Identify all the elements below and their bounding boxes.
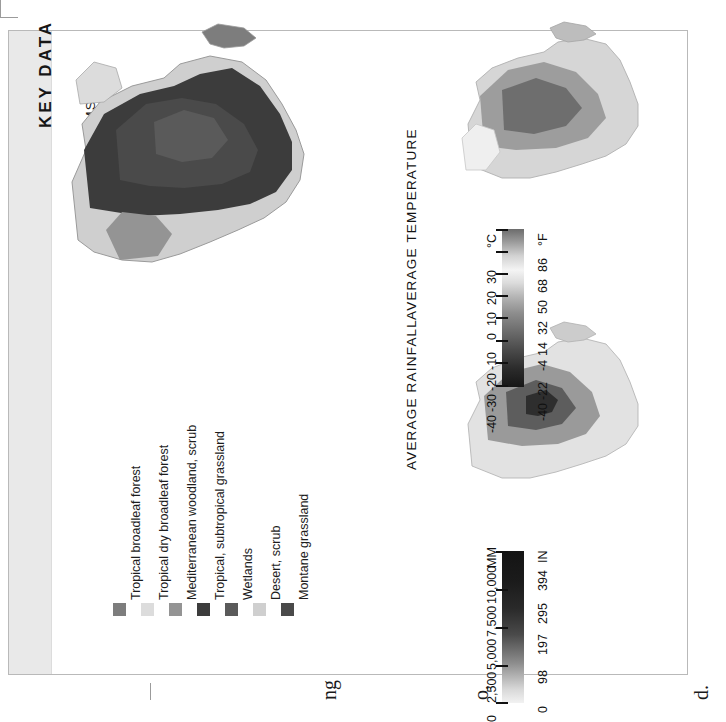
temperature-unit-f: °F [537, 233, 550, 246]
temperature-tick-f-4: 14 [537, 342, 550, 356]
temperature-unit-c: °C [486, 234, 499, 248]
temperature-tickmark-0 [496, 229, 508, 231]
rainfall-unit-in: IN [537, 551, 550, 564]
margin-rule-left [0, 0, 1, 18]
margin-fragment-top: ng [318, 680, 341, 700]
rainfall-tick-in-3: 98 [537, 670, 550, 684]
legend-label-1: Tropical dry broadleaf forest [158, 445, 171, 600]
temperature-tick-f-3: 32 [537, 321, 550, 335]
legend-label-0: Tropical broadleaf forest [130, 466, 143, 600]
temperature-tickmark-5 [496, 340, 508, 342]
temperature-tick-c-4: -10 [486, 352, 499, 370]
temperature-tick-f-1: 68 [537, 279, 550, 293]
legend-swatch-6 [281, 603, 294, 616]
ecosystems-map [60, 30, 360, 300]
rainfall-tickmark-1 [496, 589, 508, 591]
temperature-tickmark-4 [496, 317, 508, 319]
legend-swatch-0 [113, 603, 126, 616]
rainfall-tick-mm-1: 7,500 [486, 606, 499, 637]
legend-label-2: Mediterranean woodland, scrub [186, 425, 199, 600]
temperature-tick-f-6: -22 [537, 382, 550, 400]
rainfall-tick-mm-4: 0 [486, 715, 499, 722]
legend-label-6: Montane grassland [298, 494, 311, 600]
rainfall-tick-mm-0: 10,000 [486, 566, 499, 604]
temperature-tick-c-5: -20 [486, 373, 499, 391]
legend-label-3: Tropical, subtropical grassland [214, 431, 227, 600]
legend-swatch-1 [141, 603, 154, 616]
rainfall-tickmark-3 [496, 665, 508, 667]
legend-swatch-4 [225, 603, 238, 616]
rainfall-title: AVERAGE RAINFALL [405, 319, 419, 470]
legend-label-4: Wetlands [242, 548, 255, 600]
legend-swatch-3 [197, 603, 210, 616]
rainfall-tickmark-4 [496, 702, 508, 704]
temperature-title: AVERAGE TEMPERATURE [405, 128, 419, 320]
temperature-map [460, 30, 650, 200]
rainfall-tickmark-0 [496, 551, 508, 553]
margin-fragment-mid: o, [470, 685, 493, 700]
margin-rule-top [0, 17, 18, 18]
temperature-tick-f-7: -40 [537, 403, 550, 421]
temperature-tick-c-3: 0 [486, 333, 499, 340]
rainfall-tick-in-4: 0 [537, 706, 550, 713]
column-divider [150, 683, 151, 700]
rainfall-tick-in-0: 394 [537, 570, 550, 591]
temperature-tickmark-1 [496, 251, 508, 253]
margin-fragment-bottom: d. [690, 685, 713, 700]
temperature-tick-c-7: -40 [486, 415, 499, 433]
temperature-tick-c-6: -30 [486, 394, 499, 412]
temperature-tick-f-0: 86 [537, 258, 550, 272]
temperature-tickmark-3 [496, 295, 508, 297]
page-title: KEY DATA [37, 20, 54, 128]
temperature-tickmark-6 [496, 362, 508, 364]
rainfall-tick-in-1: 295 [537, 603, 550, 624]
rainfall-tick-in-2: 197 [537, 634, 550, 655]
legend-swatch-2 [169, 603, 182, 616]
temperature-tick-f-5: -4 [537, 360, 550, 371]
rainfall-tickmark-2 [496, 627, 508, 629]
temperature-tickmark-2 [496, 273, 508, 275]
temperature-tickmark-7 [496, 385, 508, 387]
temperature-tick-f-2: 50 [537, 300, 550, 314]
legend-label-5: Desert, scrub [270, 526, 283, 600]
temperature-tick-c-2: 10 [486, 312, 499, 326]
legend-swatch-5 [253, 603, 266, 616]
temperature-tick-c-1: 20 [486, 291, 499, 305]
